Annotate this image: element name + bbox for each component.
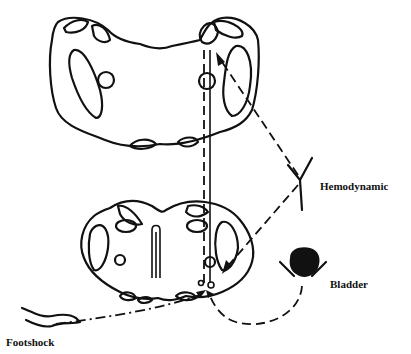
- upper-brainstem-section: [50, 18, 259, 149]
- bladder-label: Bladder: [330, 278, 368, 290]
- hemodynamic-to-lower-line: [228, 185, 298, 266]
- baroreceptor-icon: [288, 158, 312, 210]
- pathway-terminal: [208, 282, 214, 288]
- footshock-label: Footshock: [6, 336, 55, 348]
- lower-brainstem-section: [81, 201, 253, 303]
- hemodynamic-input: Hemodynamic: [216, 52, 389, 274]
- diagram-canvas: Hemodynamic Bladder Footshock: [0, 0, 411, 354]
- hemodynamic-label: Hemodynamic: [320, 180, 389, 192]
- foot-icon: [22, 308, 80, 327]
- bladder-input: Bladder: [206, 247, 368, 324]
- pathway-terminal: [199, 281, 204, 286]
